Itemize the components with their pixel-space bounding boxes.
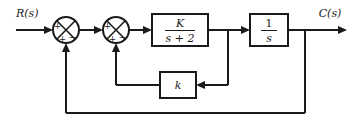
sum2-to-plant-path [129,26,152,34]
arrowhead-icon [338,26,347,34]
arrowhead-icon [196,81,205,89]
forward-gain-numerator: K [175,17,185,30]
inner-feedback-return-path [112,43,160,85]
control-system-diagram: R(s) C(s) + + − + + − K s + 2 1 s k [0,0,362,131]
arrowhead-icon [241,26,250,34]
input-path [16,26,53,34]
block-diagram-canvas: R(s) C(s) + + − + + − K s + 2 1 s k [0,0,362,131]
inner-feedback-gain-label: k [175,79,182,92]
sum1-to-sum2-path [79,26,103,34]
arrowhead-icon [112,43,120,52]
sum1-right-sign: − [69,32,77,42]
sum1-bottom-sign: + [59,34,66,44]
sum2-bottom-sign: + [109,34,116,44]
output-path [288,26,347,34]
arrowhead-icon [62,43,70,52]
forward-gain-denominator: s + 2 [166,32,195,45]
sum2-left-sign: + [104,21,111,31]
integrator-numerator: 1 [266,17,273,30]
sum2-right-sign: − [119,32,127,42]
controlled-output-label: C(s) [319,7,342,20]
arrowhead-icon [143,26,152,34]
sum1-left-sign: + [54,21,61,31]
reference-input-label: R(s) [15,7,39,20]
arrowhead-icon [44,26,53,34]
arrowhead-icon [94,26,103,34]
integrator-denominator: s [266,32,272,45]
